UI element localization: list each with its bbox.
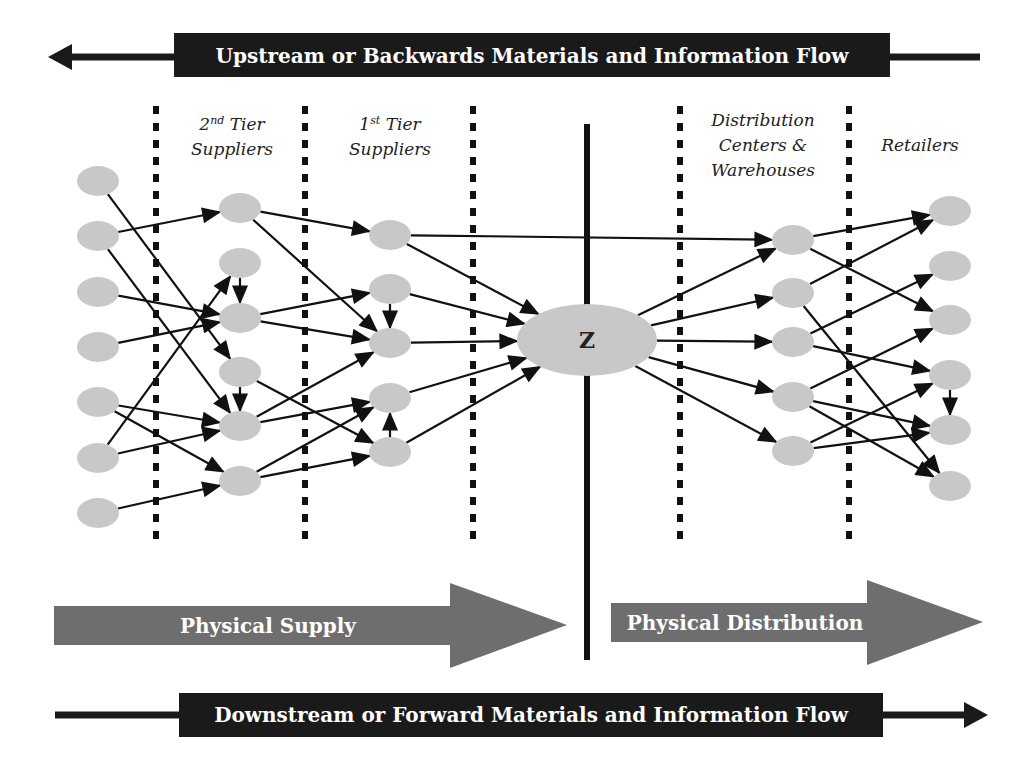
retailer-node [929, 305, 971, 335]
source-node [77, 443, 119, 473]
flow-edge [407, 244, 539, 314]
flow-edge [638, 248, 776, 315]
flow-edge [118, 431, 220, 454]
flow-edge [260, 212, 369, 232]
flow-edge [260, 456, 369, 477]
retailer-node [929, 360, 971, 390]
distribution-node [772, 278, 814, 308]
flow-edge [118, 486, 220, 509]
tier2-node [219, 411, 261, 441]
physical-distribution-arrow: Physical Distribution [611, 580, 983, 665]
source-node [77, 387, 119, 417]
tier2-label-line1: 2nd Tier [198, 114, 265, 135]
flow-edge [810, 249, 933, 312]
flow-edge [657, 341, 772, 342]
tier1-label-line1: 1st Tier [359, 114, 421, 135]
tier2-node [219, 193, 261, 223]
source-node [77, 498, 119, 528]
tier1-node [369, 220, 411, 250]
supply-chain-diagram: Upstream or Backwards Materials and Info… [0, 0, 1035, 781]
retailer-node [929, 471, 971, 501]
flow-edge [411, 341, 517, 343]
downstream-flow-arrow: Downstream or Forward Materials and Info… [55, 693, 988, 737]
tier2-node [219, 303, 261, 333]
tier1-node [369, 274, 411, 304]
upstream-flow-label: Upstream or Backwards Materials and Info… [216, 44, 850, 68]
arrow-left-icon [48, 44, 72, 70]
distribution-node [772, 382, 814, 412]
source-node [77, 221, 119, 251]
tier2-label-line2: Suppliers [191, 139, 273, 159]
retailer-node [929, 251, 971, 281]
source-node [77, 277, 119, 307]
retailer-node [929, 415, 971, 445]
flow-edge [257, 352, 374, 417]
tier1-node [369, 328, 411, 358]
arrow-right-icon [964, 702, 988, 728]
retailers-label: Retailers [880, 135, 959, 155]
distribution-label-line2: Centers & [719, 135, 807, 155]
flow-edge [118, 322, 220, 343]
flow-edge [108, 249, 230, 413]
tier2-node [219, 248, 261, 278]
downstream-flow-label: Downstream or Forward Materials and Info… [214, 703, 849, 727]
physical-supply-label: Physical Supply [180, 614, 357, 638]
distribution-node [772, 436, 814, 466]
distribution-node [772, 225, 814, 255]
retailer-node [929, 196, 971, 226]
focal-node: Z [517, 304, 657, 376]
distribution-label-line1: Distribution [710, 110, 814, 130]
flow-edge [118, 212, 220, 232]
flow-edge [261, 321, 370, 339]
tier1-node [369, 437, 411, 467]
upstream-flow-arrow: Upstream or Backwards Materials and Info… [48, 33, 980, 77]
flow-edge [649, 357, 774, 392]
tier2-node [219, 357, 261, 387]
physical-supply-arrow: Physical Supply [54, 583, 567, 668]
flow-edge [257, 407, 374, 472]
tier1-node [369, 383, 411, 413]
distribution-node [772, 327, 814, 357]
source-node [77, 166, 119, 196]
tier2-node [219, 466, 261, 496]
tier1-label-line2: Suppliers [349, 139, 431, 159]
flow-edge [810, 274, 932, 333]
flow-edge [813, 215, 929, 236]
focal-node-label: Z [579, 327, 595, 353]
flow-edge [108, 276, 231, 444]
physical-distribution-label: Physical Distribution [627, 611, 864, 635]
distribution-label-line3: Warehouses [711, 160, 815, 180]
flow-edge [409, 358, 526, 392]
flow-edge [651, 298, 773, 326]
flow-edge [635, 366, 776, 442]
source-node [77, 332, 119, 362]
flow-edge [108, 194, 230, 359]
flow-edge [411, 235, 772, 239]
flow-edge [810, 220, 933, 284]
flow-edge [253, 220, 377, 332]
